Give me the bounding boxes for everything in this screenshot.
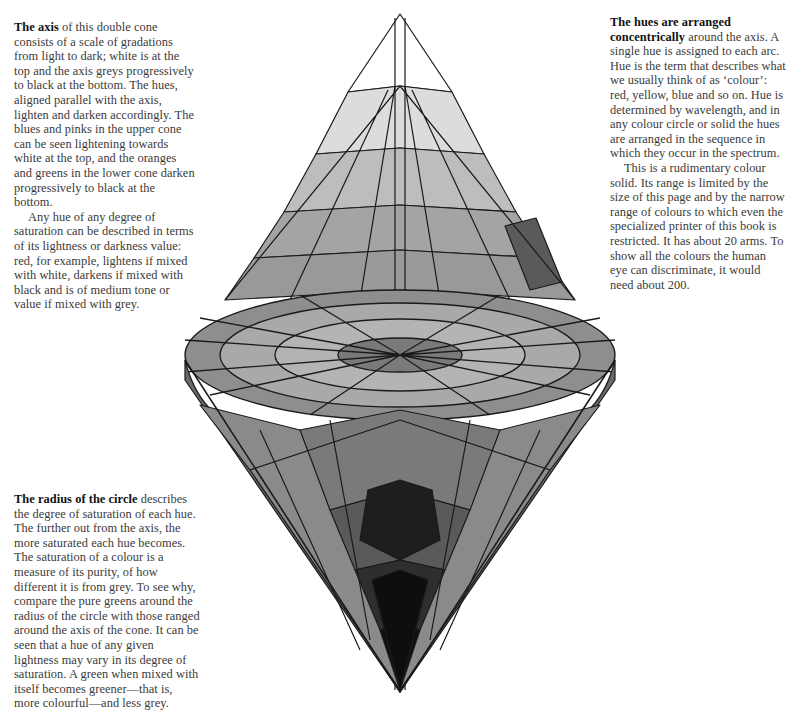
lower-cone bbox=[185, 360, 615, 692]
equator-disc bbox=[185, 290, 615, 420]
